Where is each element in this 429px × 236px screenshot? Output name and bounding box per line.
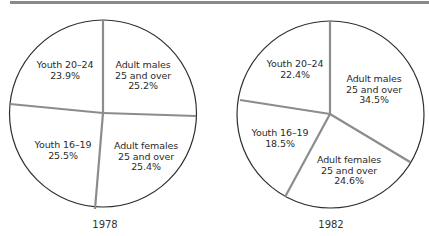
slice-label: Adult males	[115, 60, 171, 71]
slice-value: 18.5%	[252, 139, 309, 150]
slice-value: 34.5%	[346, 95, 402, 106]
slice-label: Youth 16–19	[252, 128, 309, 139]
label-1982-adult-males: Adult males 25 and over 34.5%	[346, 74, 402, 106]
pie-1978	[10, 20, 197, 209]
slice-label: Adult females	[114, 141, 178, 152]
slice-label: Youth 20–24	[267, 59, 324, 70]
label-1978-adult-females: Adult females 25 and over 25.4%	[114, 141, 178, 173]
slice-value: 25.4%	[114, 162, 178, 173]
slice-value: 23.9%	[37, 71, 94, 82]
label-1978-youth-20-24: Youth 20–24 23.9%	[37, 60, 94, 81]
slice-label: Youth 16–19	[35, 140, 92, 151]
year-label-1982: 1982	[318, 219, 343, 230]
slice-label: Adult males	[346, 74, 402, 85]
year-label-1978: 1978	[92, 219, 117, 230]
label-1982-youth-20-24: Youth 20–24 22.4%	[267, 59, 324, 80]
slice-value: 25.2%	[115, 81, 171, 92]
pie-charts	[0, 0, 429, 236]
slice-label: Adult females	[317, 155, 381, 166]
label-1982-youth-16-19: Youth 16–19 18.5%	[252, 128, 309, 149]
slice-value: 22.4%	[267, 70, 324, 81]
label-1978-youth-16-19: Youth 16–19 25.5%	[35, 140, 92, 161]
slice-value: 24.6%	[317, 176, 381, 187]
label-1982-adult-females: Adult females 25 and over 24.6%	[317, 155, 381, 187]
slice-label: Youth 20–24	[37, 60, 94, 71]
slice-value: 25.5%	[35, 151, 92, 162]
label-1978-adult-males: Adult males 25 and over 25.2%	[115, 60, 171, 92]
